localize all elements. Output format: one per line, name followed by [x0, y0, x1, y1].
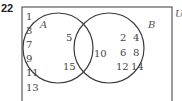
outside-element: 3 [26, 25, 32, 36]
set-b-element: 2 [120, 32, 126, 43]
venn-diagram: U A B 1 3 7 9 11 13 5 15 10 2 4 6 8 12 1… [0, 0, 182, 101]
intersection-element: 10 [94, 48, 107, 59]
outside-element: 9 [26, 53, 32, 64]
set-b-element: 8 [133, 47, 139, 58]
set-b-element: 12 [116, 61, 129, 72]
outside-element: 7 [26, 39, 32, 50]
set-a-element: 15 [63, 61, 76, 72]
outside-element: 11 [26, 67, 39, 78]
outside-element: 1 [26, 11, 32, 22]
set-b-label: B [147, 19, 155, 30]
set-b-element: 4 [133, 32, 139, 43]
set-a-element: 5 [66, 32, 72, 43]
set-b-element: 14 [131, 61, 144, 72]
set-a-label: A [39, 19, 47, 30]
universal-label: U [175, 8, 182, 19]
set-b-element: 6 [120, 47, 126, 58]
outside-element: 13 [26, 82, 39, 93]
